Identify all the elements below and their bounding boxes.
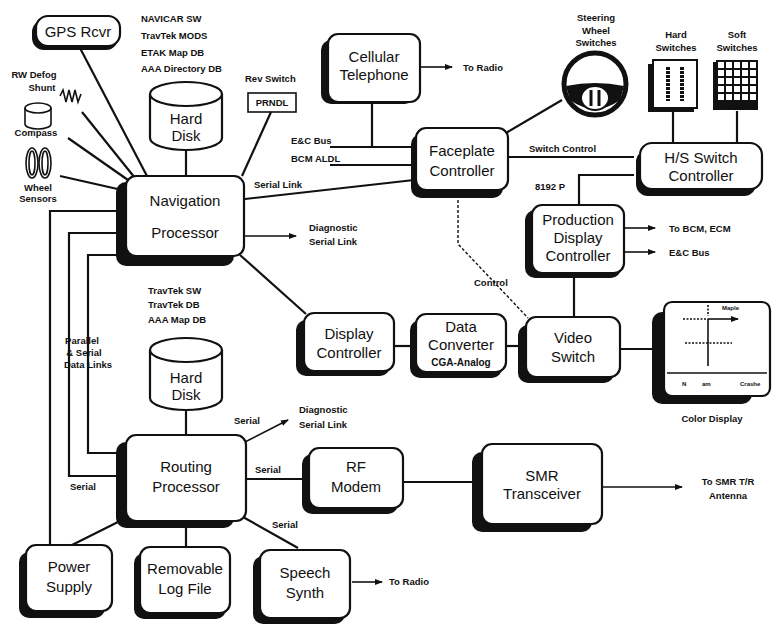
svg-text:8192 P: 8192 P xyxy=(535,181,566,192)
nav-hard-disk: Hard Disk xyxy=(150,82,222,150)
soft-switches: Soft Switches xyxy=(713,29,758,110)
routing-processor-block[interactable]: Routing Processor xyxy=(116,435,246,528)
data-conv-label-3: CGA-Analog xyxy=(431,357,490,368)
nav-disk-label-2: Disk xyxy=(171,127,201,144)
faceplate-label-2: Controller xyxy=(429,162,494,179)
power-label-2: Supply xyxy=(46,578,92,595)
svg-text:Shunt: Shunt xyxy=(29,82,57,93)
rw-defog-shunt: RW Defog Shunt xyxy=(11,69,81,102)
power-supply-block[interactable]: Power Supply xyxy=(19,545,112,618)
removable-log-file-block[interactable]: Removable Log File xyxy=(134,547,230,619)
smr-transceiver-block[interactable]: SMR Transceiver xyxy=(472,444,602,532)
hs-label-2: Controller xyxy=(668,167,733,184)
svg-text:Diagnostic: Diagnostic xyxy=(299,404,348,415)
hs-label-1: H/S Switch xyxy=(664,149,737,166)
svg-text:RW Defog: RW Defog xyxy=(11,69,56,80)
steering-wheel-icon xyxy=(564,53,626,115)
prndl-label: PRNDL xyxy=(256,97,289,108)
svg-text:TravTek MODS: TravTek MODS xyxy=(141,30,207,41)
svg-text:Hard: Hard xyxy=(665,29,687,40)
svg-text:Wheel: Wheel xyxy=(24,182,52,193)
nav-label-2: Processor xyxy=(151,224,219,241)
display-ctrl-label-1: Display xyxy=(324,325,374,342)
svg-text:Serial Link: Serial Link xyxy=(254,179,303,190)
nav-disk-label-1: Hard xyxy=(170,110,203,127)
prod-label-1: Production xyxy=(542,211,614,228)
svg-text:E&C Bus: E&C Bus xyxy=(669,247,710,258)
nav-label-1: Navigation xyxy=(150,192,221,209)
video-label-1: Video xyxy=(554,329,592,346)
navigation-processor-block[interactable]: Navigation Processor xyxy=(116,176,244,266)
hard-switches: Hard Switches xyxy=(648,29,697,112)
cell-label-2: Telephone xyxy=(339,66,408,83)
speech-synth-block[interactable]: Speech Synth xyxy=(253,550,350,624)
svg-text:Diagnostic: Diagnostic xyxy=(309,222,358,233)
data-converter-block[interactable]: Data Converter CGA-Analog xyxy=(410,314,506,378)
prod-label-3: Controller xyxy=(545,247,610,264)
route-disk-contents: TravTek SW TravTek DB AAA Map DB xyxy=(148,285,206,325)
speech-label-2: Synth xyxy=(286,584,324,601)
svg-text:BCM ALDL: BCM ALDL xyxy=(291,153,340,164)
svg-text:Control: Control xyxy=(474,277,508,288)
svg-text:Serial: Serial xyxy=(272,519,298,530)
svg-text:Switch Control: Switch Control xyxy=(529,143,596,154)
svg-text:Maple: Maple xyxy=(722,305,740,311)
color-display[interactable]: Maple N am Crashe Color Display xyxy=(652,302,770,424)
svg-text:Crashe: Crashe xyxy=(740,381,761,387)
svg-text:N: N xyxy=(682,381,686,387)
route-hard-disk: Hard Disk xyxy=(150,338,222,410)
prod-label-2: Display xyxy=(553,229,603,246)
rf-label-1: RF xyxy=(346,458,366,475)
routing-label-2: Processor xyxy=(152,478,220,495)
svg-text:TravTek SW: TravTek SW xyxy=(148,285,201,296)
system-diagram: GPS Rcvr Navigation Processor Cellular T… xyxy=(0,0,777,633)
svg-text:Rev Switch: Rev Switch xyxy=(245,73,296,84)
svg-text:To SMR T/R: To SMR T/R xyxy=(702,476,755,487)
power-label-1: Power xyxy=(48,558,91,575)
svg-text:To Radio: To Radio xyxy=(389,576,429,587)
svg-text:TravTek DB: TravTek DB xyxy=(148,299,200,310)
svg-text:To Radio: To Radio xyxy=(463,62,503,73)
display-ctrl-label-2: Controller xyxy=(316,344,381,361)
svg-text:Switches: Switches xyxy=(575,37,616,48)
log-label-2: Log File xyxy=(158,580,211,597)
log-label-1: Removable xyxy=(147,560,223,577)
svg-text:Parallel: Parallel xyxy=(65,335,99,346)
hs-switch-controller-block[interactable]: H/S Switch Controller xyxy=(636,143,762,196)
compass: Compass xyxy=(15,103,58,138)
svg-text:Soft: Soft xyxy=(728,29,747,40)
video-label-2: Switch xyxy=(551,348,595,365)
svg-text:AAA Map DB: AAA Map DB xyxy=(148,314,206,325)
production-display-controller-block[interactable]: Production Display Controller xyxy=(525,205,624,278)
cellular-telephone-block[interactable]: Cellular Telephone xyxy=(321,34,420,104)
gps-receiver-block[interactable]: GPS Rcvr xyxy=(32,16,120,50)
svg-text:E&C Bus: E&C Bus xyxy=(291,135,332,146)
svg-text:am: am xyxy=(702,381,711,387)
svg-text:ETAK Map DB: ETAK Map DB xyxy=(141,47,204,58)
svg-text:Sensors: Sensors xyxy=(19,193,57,204)
faceplate-controller-block[interactable]: Faceplate Controller xyxy=(411,128,508,198)
svg-text:Data Links: Data Links xyxy=(64,359,112,370)
svg-text:Serial: Serial xyxy=(255,464,281,475)
route-disk-label-1: Hard xyxy=(170,369,203,386)
svg-text:Compass: Compass xyxy=(15,127,58,138)
data-conv-label-1: Data xyxy=(445,318,477,335)
rf-label-2: Modem xyxy=(331,478,381,495)
routing-label-1: Routing xyxy=(160,458,212,475)
faceplate-label-1: Faceplate xyxy=(429,142,495,159)
wheel-sensors: Wheel Sensors xyxy=(19,148,57,204)
rev-switch: Rev Switch PRNDL xyxy=(245,73,296,112)
speech-label-1: Speech xyxy=(280,564,331,581)
rf-modem-block[interactable]: RF Modem xyxy=(302,448,403,514)
video-switch-block[interactable]: Video Switch xyxy=(518,317,620,383)
wheel-icon xyxy=(26,148,38,178)
gps-label: GPS Rcvr xyxy=(45,23,112,40)
svg-text:Switches: Switches xyxy=(655,42,696,53)
svg-text:NAVICAR SW: NAVICAR SW xyxy=(141,13,202,24)
smr-label-1: SMR xyxy=(525,467,559,484)
svg-text:Switches: Switches xyxy=(716,42,757,53)
svg-text:Serial Link: Serial Link xyxy=(309,236,358,247)
nav-disk-contents: NAVICAR SW TravTek MODS ETAK Map DB AAA … xyxy=(141,13,222,74)
svg-text:AAA Directory DB: AAA Directory DB xyxy=(141,63,222,74)
display-controller-block[interactable]: Display Controller xyxy=(296,313,394,376)
